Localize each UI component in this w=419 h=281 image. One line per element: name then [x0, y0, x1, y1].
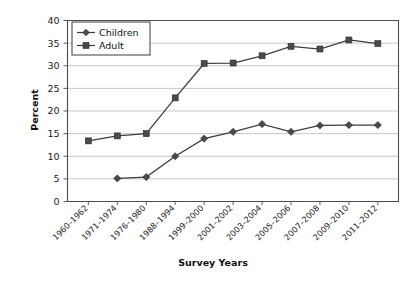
y-tick-label: 20: [47, 105, 59, 116]
y-tick-label: 10: [47, 151, 59, 162]
y-tick-label: 25: [47, 83, 59, 94]
data-point-adult: [85, 138, 91, 144]
legend-label-children: Children: [99, 27, 139, 38]
data-point-adult: [346, 37, 352, 43]
y-axis-title: Percent: [29, 89, 40, 131]
line-chart: 0510152025303540 1960–19621971–19741976–…: [0, 0, 419, 281]
y-tick-label: 0: [53, 196, 59, 207]
data-point-adult: [172, 95, 178, 101]
y-tick-label: 40: [47, 15, 59, 26]
data-point-adult: [259, 53, 265, 59]
data-point-adult: [375, 41, 381, 47]
data-point-adult: [201, 60, 207, 66]
x-axis-title: Survey Years: [178, 257, 248, 268]
y-tick-label: 15: [47, 128, 59, 139]
y-tick-label: 5: [53, 173, 59, 184]
data-point-adult: [288, 43, 294, 49]
chart-container: 0510152025303540 1960–19621971–19741976–…: [0, 0, 419, 281]
legend-label-adult: Adult: [99, 40, 124, 51]
chart-background: [0, 0, 419, 281]
data-point-adult: [317, 46, 323, 52]
chart-legend: Children Adult: [72, 22, 150, 55]
data-point-adult: [114, 133, 120, 139]
y-tick-label: 35: [47, 38, 59, 49]
data-point-adult: [143, 131, 149, 137]
square-marker-icon: [83, 43, 89, 49]
y-tick-label: 30: [47, 60, 59, 71]
data-point-adult: [230, 60, 236, 66]
